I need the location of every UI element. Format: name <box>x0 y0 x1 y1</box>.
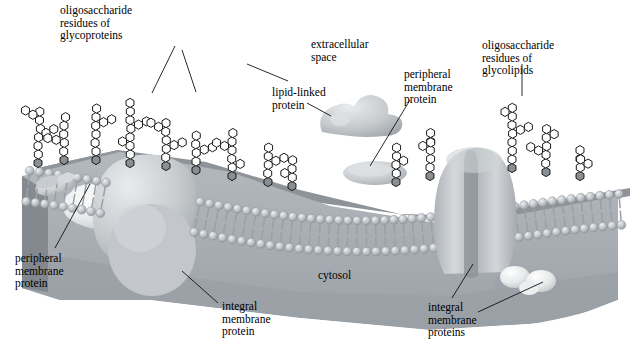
label-cytosol: cytosol <box>318 269 351 282</box>
label-line: peripheral <box>15 252 64 265</box>
lipid-head <box>595 191 604 200</box>
sugar-ring <box>92 113 100 122</box>
lipid-head <box>270 210 279 219</box>
sugar-ring <box>543 142 551 151</box>
lipid-head <box>571 225 580 234</box>
sugar-ring <box>119 137 127 146</box>
sugar-ring <box>281 169 289 178</box>
lipid-head <box>237 237 246 246</box>
lipid-head <box>548 197 557 206</box>
label-line: oligosaccharide <box>60 4 132 17</box>
lipid-head <box>380 216 389 225</box>
lipid-head <box>25 166 34 175</box>
sugar-ring <box>272 156 280 165</box>
label-line: residues of <box>60 17 132 30</box>
leader-glycoprotein-a <box>152 46 175 93</box>
lipid-head <box>576 193 585 202</box>
glycan-anchor-ring <box>162 161 170 170</box>
lipid-head <box>288 212 297 221</box>
label-line: glycolipids <box>482 64 554 77</box>
label-line: peripheral <box>404 68 453 81</box>
glycan-anchor-ring <box>60 155 68 164</box>
lipid-tail <box>432 234 433 244</box>
lipid-head <box>298 213 307 222</box>
lipid-tail <box>290 233 291 243</box>
sugar-ring <box>162 144 170 153</box>
lipid-head <box>334 216 343 225</box>
lipid-head <box>399 215 408 224</box>
lipid-tail <box>300 234 301 244</box>
lipid-head <box>247 238 256 247</box>
lipid-head <box>344 216 353 225</box>
lipid-tail <box>611 211 612 221</box>
label-line: extracellular <box>311 38 368 51</box>
lipid-head <box>539 198 548 207</box>
lipid-head <box>77 205 86 214</box>
lipid-head <box>102 178 111 187</box>
label-integral-membrane-protein: integralmembraneprotein <box>222 300 271 338</box>
sugar-ring <box>29 110 37 119</box>
sugar-ring <box>147 118 155 127</box>
lipid-tail <box>329 224 330 234</box>
sugar-ring <box>35 133 43 142</box>
lipid-tail <box>592 213 593 223</box>
label-line: membrane <box>404 81 453 94</box>
lipid-head <box>391 246 400 255</box>
lipid-head <box>285 243 294 252</box>
lipid-head <box>426 213 435 222</box>
lipid-head <box>353 216 362 225</box>
glycan-anchor-ring <box>192 165 200 174</box>
lipid-tail <box>403 224 404 234</box>
leader-glycoprotein-b <box>182 50 196 92</box>
lipid-tail <box>291 221 292 231</box>
lipid-head <box>276 242 285 251</box>
lipid-head <box>242 206 251 215</box>
sugar-ring <box>92 147 100 156</box>
label-line: cytosol <box>318 269 351 282</box>
sugar-ring <box>192 148 200 157</box>
label-line: protein <box>404 93 453 106</box>
sugar-ring <box>392 169 400 178</box>
lipid-head <box>324 246 333 255</box>
sugar-ring <box>93 104 101 113</box>
sugar-ring <box>91 138 99 147</box>
membrane-diagram: oligosaccharideresidues ofglycoproteinse… <box>0 0 639 350</box>
lipid-head <box>381 247 390 256</box>
sugar-ring <box>577 155 585 164</box>
glycan-anchor-ring <box>392 177 400 186</box>
label-line: oligosaccharide <box>482 39 554 52</box>
lipid-head <box>410 245 419 254</box>
sugar-ring <box>427 128 435 137</box>
lipid-head <box>35 168 44 177</box>
sugar-ring <box>21 106 29 115</box>
sugar-ring <box>50 125 58 134</box>
sugar-ring <box>92 121 100 130</box>
lipid-tail <box>310 223 311 233</box>
lipid-head <box>420 244 429 253</box>
lipid-head <box>389 215 398 224</box>
lipid-head <box>266 241 275 250</box>
lipid-tail <box>620 211 621 221</box>
lipid-head <box>552 228 561 237</box>
lipid-head <box>371 216 380 225</box>
lipid-head <box>256 240 265 249</box>
sugar-ring <box>229 128 237 137</box>
lipid-head <box>209 231 218 240</box>
lipid-head <box>325 215 334 224</box>
sugar-ring <box>192 157 200 166</box>
label-line: integral <box>222 300 271 313</box>
glycan-anchor-ring <box>228 171 236 180</box>
label-line: membrane <box>428 314 477 327</box>
lipid-head <box>589 223 598 232</box>
glycan-anchor-ring <box>126 158 134 167</box>
lipid-tail <box>404 236 405 246</box>
label-extracellular-space: extracellularspace <box>311 38 368 63</box>
sugar-ring <box>126 98 134 107</box>
sugar-ring <box>127 124 135 133</box>
lipid-head <box>372 247 381 256</box>
sugar-ring <box>192 140 200 149</box>
label-line: glycoproteins <box>60 29 132 42</box>
lipid-head <box>605 190 614 199</box>
sugar-ring <box>92 130 100 139</box>
sugar-ring <box>508 112 516 121</box>
